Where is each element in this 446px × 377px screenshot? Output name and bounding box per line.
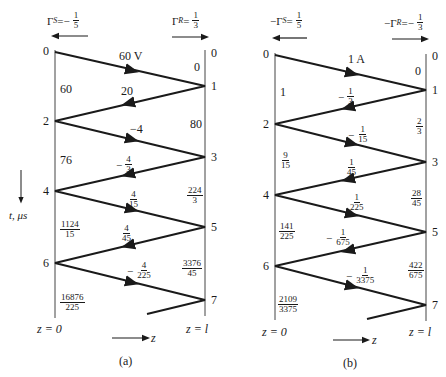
- time-label: 6: [263, 260, 269, 272]
- denominator: 225: [65, 303, 81, 312]
- source-reflection-b: −ΓS = 15: [270, 11, 302, 31]
- total-value: 23: [416, 117, 423, 137]
- denominator: 15: [64, 230, 75, 239]
- wave-value: −115: [348, 125, 368, 145]
- time-axis-label: t, μs: [9, 210, 27, 221]
- total-value: 337645: [182, 259, 202, 279]
- sign: −: [64, 15, 70, 27]
- total-value: 112415: [60, 220, 80, 240]
- denominator: 5: [73, 21, 80, 30]
- time-label: 7: [211, 294, 217, 306]
- equals-sign: =: [183, 15, 189, 27]
- total-value: 2243: [187, 186, 203, 206]
- wave-value: 145: [343, 158, 357, 178]
- denominator: 45: [411, 199, 422, 208]
- total-value: 21093375: [278, 295, 298, 315]
- wave-value: 20: [121, 85, 133, 97]
- total-value: 60: [60, 83, 72, 95]
- total-value: 76: [60, 154, 72, 166]
- denominator: 15: [357, 135, 368, 144]
- fraction: 1225: [349, 193, 365, 213]
- denominator: 15: [280, 161, 291, 170]
- denominator: 675: [335, 238, 351, 247]
- total-value: 422675: [408, 261, 424, 281]
- total-value: 80: [190, 118, 202, 130]
- time-label: 1: [211, 80, 217, 92]
- gamma-symbol: −Γ: [384, 17, 397, 29]
- caption-a: (a): [119, 355, 132, 367]
- fraction: 15: [296, 11, 303, 31]
- fraction: 115: [357, 125, 368, 145]
- wave-value: −1675: [326, 228, 351, 248]
- wave-value: −4: [130, 123, 143, 135]
- denominator: 675: [408, 271, 424, 280]
- incident-wave-label-a: 60 V: [119, 50, 142, 62]
- denominator: 5: [296, 21, 303, 30]
- fraction: 13: [417, 13, 424, 33]
- wave-value: −13375: [346, 266, 375, 286]
- sign: −: [127, 265, 133, 277]
- total-value: 1: [280, 86, 286, 98]
- denominator: 3: [417, 23, 424, 32]
- total-value: 141225: [279, 222, 295, 242]
- time-label: 4: [43, 185, 49, 197]
- z-end-label: z = l: [409, 326, 431, 338]
- z-start-label: z = 0: [37, 323, 62, 335]
- time-label: 1: [432, 84, 438, 96]
- denominator: 3375: [278, 305, 298, 314]
- sign: −: [116, 159, 122, 171]
- sign: −: [348, 129, 354, 141]
- time-label: 2: [43, 115, 49, 127]
- total-value: 915: [280, 151, 291, 171]
- denominator: 15: [128, 200, 139, 209]
- z-axis-label: z: [372, 334, 377, 346]
- equals-sign: =: [287, 15, 293, 27]
- time-label: 5: [211, 221, 217, 233]
- sign: −: [346, 270, 352, 282]
- denominator: 3: [192, 21, 199, 30]
- time-label: 7: [432, 299, 438, 311]
- time-label: 3: [211, 151, 217, 163]
- wave-value: 445: [118, 224, 132, 244]
- fraction: 13: [192, 11, 199, 31]
- fraction: 1675: [335, 228, 351, 248]
- gamma-symbol: −Γ: [270, 15, 283, 27]
- wave-value: 415: [125, 190, 139, 210]
- wave-value: −13: [338, 87, 354, 107]
- caption-b: (b): [343, 357, 357, 369]
- time-label: 4: [263, 189, 269, 201]
- time-label: 0: [432, 50, 438, 62]
- sign: −: [408, 17, 414, 29]
- fraction: 445: [121, 224, 132, 244]
- bounce-diagram-lines: [0, 0, 446, 377]
- total-value: 0: [415, 65, 421, 77]
- z-start-label: z = 0: [262, 326, 287, 338]
- time-label: 0: [43, 45, 49, 57]
- time-label: 2: [263, 118, 269, 130]
- wave-value: 1225: [346, 193, 365, 213]
- time-label: 0: [263, 48, 269, 60]
- fraction: 13375: [355, 266, 375, 286]
- denominator: 225: [136, 271, 152, 280]
- denominator: 225: [349, 203, 365, 212]
- denominator: 3375: [355, 276, 375, 285]
- total-value: 2845: [411, 189, 422, 209]
- load-reflection-b: −ΓR = − 13: [384, 13, 423, 33]
- denominator: 3: [125, 165, 132, 174]
- denominator: 3: [192, 196, 199, 205]
- z-axis-label: z: [151, 332, 156, 344]
- denominator: 225: [279, 232, 295, 241]
- denominator: 45: [121, 234, 132, 243]
- total-value: 16876225: [60, 293, 85, 313]
- time-label: 5: [432, 226, 438, 238]
- fraction: 145: [346, 158, 357, 178]
- denominator: 3: [347, 97, 354, 106]
- z-end-label: z = l: [186, 323, 208, 335]
- time-label: 3: [432, 156, 438, 168]
- wave-value: −4225: [127, 261, 152, 281]
- denominator: 45: [346, 168, 357, 177]
- total-value: 0: [194, 61, 200, 73]
- wave-value: −43: [116, 155, 132, 175]
- fraction: 13: [347, 87, 354, 107]
- load-reflection-a: ΓR = 13: [172, 11, 199, 31]
